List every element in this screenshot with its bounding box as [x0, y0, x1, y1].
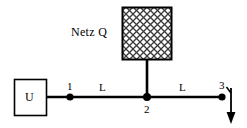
network-q-label: Netz Q — [71, 26, 107, 38]
voltage-source-label: U — [25, 91, 34, 103]
node-dot-3 — [218, 93, 225, 100]
network-q-block — [123, 8, 172, 60]
node-label-1: 1 — [67, 81, 73, 92]
fault-current-arrow — [227, 87, 236, 124]
segment-label-2: L — [179, 82, 186, 93]
node-dot-2 — [143, 93, 151, 101]
diagram-canvas — [0, 0, 247, 128]
segment-label-1: L — [99, 82, 106, 93]
node-label-2: 2 — [144, 104, 150, 115]
node-label-3: 3 — [219, 80, 225, 91]
node-dot-1 — [66, 93, 73, 100]
electrical-network-diagram: Netz Q U 1 2 3 L L — [0, 0, 247, 128]
